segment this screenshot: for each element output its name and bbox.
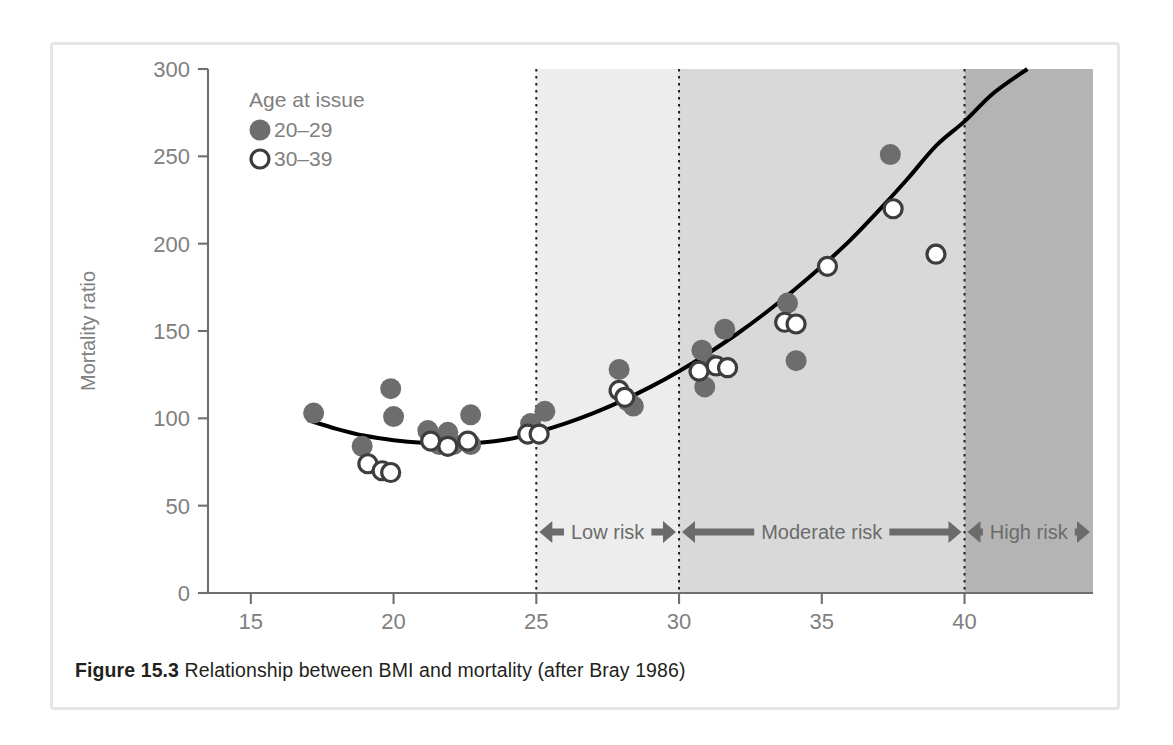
- x-tick-label-20: 20: [381, 609, 405, 634]
- data-point-30–39: [719, 359, 737, 377]
- y-tick-label-200: 200: [153, 232, 190, 257]
- risk-label-moderate-risk: Moderate risk: [761, 521, 883, 543]
- data-point-30–39: [787, 315, 805, 333]
- y-tick-label-250: 250: [153, 144, 190, 169]
- x-tick-label-15: 15: [239, 609, 263, 634]
- data-point-30–39: [927, 245, 945, 263]
- figure-frame: 050100150200250300152025303540Body mass …: [50, 42, 1120, 710]
- data-point-20–29: [534, 401, 555, 422]
- data-point-20–29: [880, 144, 901, 165]
- data-point-20–29: [383, 406, 404, 427]
- legend-marker-30–39: [251, 150, 269, 168]
- data-point-30–39: [819, 257, 837, 275]
- data-point-20–29: [777, 293, 798, 314]
- legend-marker-20–29: [250, 120, 271, 141]
- legend-label-20–29: 20–29: [274, 118, 332, 141]
- x-tick-label-35: 35: [810, 609, 834, 634]
- y-tick-label-150: 150: [153, 319, 190, 344]
- y-tick-label-300: 300: [153, 57, 190, 82]
- data-point-30–39: [530, 425, 548, 443]
- data-point-20–29: [303, 403, 324, 424]
- risk-label-high-risk: High risk: [990, 521, 1069, 543]
- risk-band-low-risk: [536, 69, 679, 593]
- data-point-30–39: [422, 432, 440, 450]
- data-point-30–39: [382, 463, 400, 481]
- chart-plot: 050100150200250300152025303540Body mass …: [53, 45, 1117, 645]
- x-tick-label-25: 25: [524, 609, 548, 634]
- caption-text: Relationship between BMI and mortality (…: [185, 659, 686, 681]
- y-tick-label-50: 50: [166, 494, 190, 519]
- figure-caption: Figure 15.3 Relationship between BMI and…: [75, 659, 1095, 682]
- data-point-20–29: [786, 350, 807, 371]
- x-tick-label-40: 40: [952, 609, 976, 634]
- data-point-30–39: [616, 388, 634, 406]
- caption-label: Figure 15.3: [75, 659, 179, 681]
- data-point-30–39: [459, 432, 477, 450]
- data-point-20–29: [460, 404, 481, 425]
- data-point-20–29: [380, 378, 401, 399]
- risk-band-high-risk: [965, 69, 1093, 593]
- legend-title: Age at issue: [249, 88, 365, 111]
- data-point-20–29: [714, 319, 735, 340]
- y-axis-title: Mortality ratio: [77, 271, 99, 391]
- risk-label-low-risk: Low risk: [571, 521, 645, 543]
- data-point-30–39: [884, 200, 902, 218]
- data-point-30–39: [439, 437, 457, 455]
- y-tick-label-100: 100: [153, 406, 190, 431]
- bmi-mortality-chart: 050100150200250300152025303540Body mass …: [53, 45, 1117, 645]
- x-tick-label-30: 30: [667, 609, 691, 634]
- data-point-30–39: [690, 362, 708, 380]
- legend-label-30–39: 30–39: [274, 147, 332, 170]
- data-point-20–29: [609, 359, 630, 380]
- y-tick-label-0: 0: [178, 581, 190, 606]
